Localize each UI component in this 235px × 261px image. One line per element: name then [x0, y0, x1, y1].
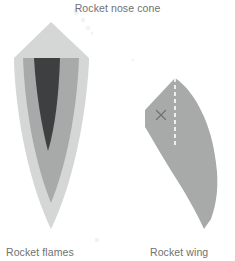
speck-f — [131, 58, 134, 61]
speck-b — [80, 17, 85, 23]
label-rocket-wing: Rocket wing — [150, 246, 208, 258]
diagram-canvas: Rocket nose cone Rocket flames Rocket wi… — [0, 0, 235, 261]
wing-body — [145, 78, 217, 229]
label-rocket-flames: Rocket flames — [6, 246, 74, 258]
rocket-wing-figure — [145, 78, 217, 229]
rocket-flames-figure — [14, 22, 89, 229]
label-rocket-nose-cone: Rocket nose cone — [0, 2, 235, 14]
speck-d — [90, 31, 93, 34]
rocket-parts-illustration — [0, 0, 235, 261]
speck-c — [85, 26, 90, 30]
speck-e — [95, 238, 99, 242]
